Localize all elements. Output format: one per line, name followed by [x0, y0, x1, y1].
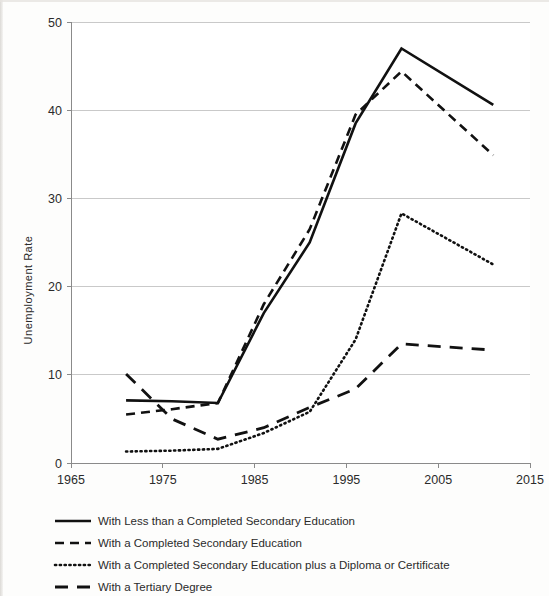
chart-figure: 01020304050 196519751985199520052015 Une… [0, 0, 549, 596]
x-tick-label-1975: 1975 [149, 473, 177, 487]
x-axis-tick-labels: 196519751985199520052015 [57, 473, 544, 487]
legend-label-1: With a Completed Secondary Education [98, 537, 302, 549]
legend-label-2: With a Completed Secondary Education plu… [98, 559, 450, 571]
unemployment-rate-line-chart: 01020304050 196519751985199520052015 Une… [0, 0, 549, 596]
y-tick-label-30: 30 [48, 192, 62, 206]
y-tick-label-10: 10 [48, 368, 62, 382]
x-tick-label-1995: 1995 [332, 473, 360, 487]
y-axis-title: Unemployment Rate [22, 236, 34, 345]
x-tick-label-2005: 2005 [424, 473, 452, 487]
x-axis-tickmarks [71, 463, 530, 468]
y-tick-label-20: 20 [48, 280, 62, 294]
legend-label-3: With a Tertiary Degree [98, 581, 212, 593]
scan-edge-top [0, 0, 549, 2]
scan-edge-left [0, 0, 3, 596]
x-tick-label-2015: 2015 [516, 473, 544, 487]
y-axis-tickmarks [67, 22, 71, 463]
chart-legend: With Less than a Completed Secondary Edu… [55, 515, 450, 593]
x-tick-label-1965: 1965 [57, 473, 85, 487]
y-tick-label-40: 40 [48, 104, 62, 118]
y-tick-label-0: 0 [55, 457, 62, 471]
y-axis-tick-labels: 01020304050 [48, 16, 62, 471]
y-tick-label-50: 50 [48, 16, 62, 30]
x-tick-label-1985: 1985 [241, 473, 269, 487]
legend-label-0: With Less than a Completed Secondary Edu… [98, 515, 355, 527]
